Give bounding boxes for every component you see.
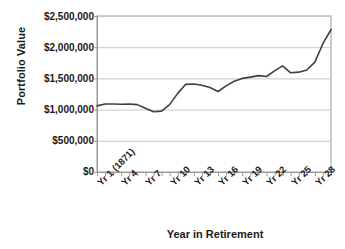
x-tick-label: Yr 25 (289, 164, 313, 188)
x-axis-tick-labels: Yr 1 (1871)Yr 4Yr 7Yr 10Yr 13Yr 16Yr 19Y… (0, 0, 345, 249)
x-tick-label: Yr 13 (192, 164, 216, 188)
x-tick-label: Yr 22 (264, 164, 288, 188)
x-tick-label: Yr 10 (168, 164, 192, 188)
x-tick-label: Yr 16 (216, 164, 240, 188)
line-chart: Portfolio Value Year in Retirement $2,50… (0, 0, 345, 249)
x-tick-label: Yr 4 (119, 167, 139, 187)
x-tick-label: Yr 7 (143, 167, 163, 187)
x-tick-label: Yr 19 (240, 164, 264, 188)
x-tick-label: Yr 28 (313, 164, 337, 188)
